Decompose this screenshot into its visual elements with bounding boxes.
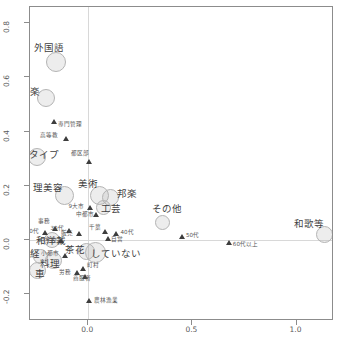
y-axis-tick xyxy=(24,185,29,186)
plot-area: 外国語洋楽タイプ理美容美術邦楽工芸その他和歌等和洋裁茶花していない編経料理車専門… xyxy=(29,6,333,320)
data-point-label: 都区部 xyxy=(71,151,89,157)
data-point-label: 美術 xyxy=(78,179,98,189)
data-point-label: 9大市 xyxy=(68,204,84,210)
data-point-label: タイプ xyxy=(29,150,59,160)
gridline-y-zero xyxy=(30,240,332,241)
data-point-label: していない xyxy=(91,249,141,259)
y-axis-tick xyxy=(24,293,29,294)
y-axis-tick-label: 0.0 xyxy=(2,238,11,250)
data-point-triangle xyxy=(80,266,86,271)
data-point-label: 事務 xyxy=(38,219,50,225)
data-point-label: 専門管理 xyxy=(58,122,82,128)
x-axis-tick-label: 0.5 xyxy=(171,325,211,334)
data-point-triangle xyxy=(58,238,64,243)
x-axis-tick-label: 1.0 xyxy=(276,325,316,334)
data-point-label: 販売 xyxy=(61,231,73,237)
data-point-label: 20代 xyxy=(29,229,39,235)
data-point-label: 洋楽 xyxy=(29,87,40,97)
data-point-triangle xyxy=(62,253,68,258)
data-point-triangle xyxy=(102,229,108,234)
data-point-triangle xyxy=(87,205,93,210)
data-point-label: 理美容 xyxy=(33,183,63,193)
data-point-label: 労務 xyxy=(59,270,71,276)
data-point-label: 自営 xyxy=(111,237,123,243)
data-point-triangle xyxy=(86,159,92,164)
data-point-label: 工芸 xyxy=(101,204,121,214)
data-point-label: 高等教 xyxy=(40,133,58,139)
data-point-label: 中都市 xyxy=(76,212,94,218)
data-point-label: 40代 xyxy=(120,230,133,236)
data-point-triangle xyxy=(93,212,99,217)
data-point-label: 千葉 xyxy=(89,225,101,231)
y-axis-tick-label: -0.2 xyxy=(2,289,11,304)
data-point-label: 小都市 xyxy=(41,251,59,257)
y-axis-tick-label: 0.2 xyxy=(2,184,11,196)
data-point-triangle xyxy=(105,236,111,241)
data-point-label: 車 xyxy=(35,269,45,279)
y-axis-tick xyxy=(24,76,29,77)
data-point-triangle xyxy=(86,298,92,303)
scatter-chart: 外国語洋楽タイプ理美容美術邦楽工芸その他和歌等和洋裁茶花していない編経料理車専門… xyxy=(0,0,341,347)
data-point-label: 60代以上 xyxy=(233,242,258,248)
y-axis-tick xyxy=(24,22,29,23)
data-point-label: その他 xyxy=(152,204,182,214)
data-point-label: 50代 xyxy=(186,233,199,239)
data-point-label: 外国語 xyxy=(34,43,64,53)
data-point-triangle xyxy=(74,270,80,275)
data-point-label: 和歌等 xyxy=(294,219,324,229)
data-point-triangle xyxy=(51,119,57,124)
data-point-label: 中学校 xyxy=(39,238,57,244)
data-point-triangle xyxy=(76,231,82,236)
data-point-bubble xyxy=(155,215,170,230)
data-point-label: 商服者 xyxy=(73,276,91,282)
data-point-label: 茶花 xyxy=(65,245,85,255)
x-axis-tick-label: 0.0 xyxy=(67,325,107,334)
data-point-label: 町村 xyxy=(87,263,99,269)
y-axis-tick xyxy=(24,131,29,132)
data-point-triangle xyxy=(179,234,185,239)
data-point-label: 農林漁業 xyxy=(94,298,118,304)
data-point-triangle xyxy=(63,136,69,141)
data-point-bubble xyxy=(46,52,66,72)
y-axis-tick-label: 0.8 xyxy=(2,21,11,33)
data-point-triangle xyxy=(226,240,232,245)
y-axis-tick-label: 0.4 xyxy=(2,130,11,142)
y-axis-tick-label: 0.6 xyxy=(2,75,11,87)
y-axis-tick xyxy=(24,239,29,240)
data-point-label: 編経 xyxy=(29,249,40,259)
data-point-label: 邦楽 xyxy=(117,189,137,199)
data-point-triangle xyxy=(42,230,48,235)
